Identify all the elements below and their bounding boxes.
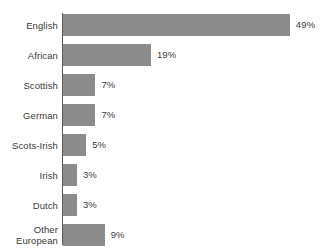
bar-track: 49%: [63, 14, 315, 36]
bar: [63, 134, 86, 156]
bar-value-label: 7%: [101, 74, 115, 96]
bar-row: English49%: [0, 10, 322, 40]
category-label: Scots-Irish: [0, 130, 58, 160]
bar-track: 19%: [63, 44, 176, 66]
bar: [63, 194, 77, 216]
bar-chart: English49%African19%Scottish7%German7%Sc…: [0, 0, 322, 252]
bar-row: German7%: [0, 100, 322, 130]
category-label: English: [0, 10, 58, 40]
bar-row: Other European9%: [0, 220, 322, 250]
bar-track: 9%: [63, 224, 125, 246]
bar: [63, 224, 105, 246]
bar-row: Irish3%: [0, 160, 322, 190]
bar-track: 3%: [63, 194, 97, 216]
bar-row: Scottish7%: [0, 70, 322, 100]
bar-value-label: 7%: [101, 104, 115, 126]
bar-value-label: 5%: [92, 134, 106, 156]
bar-value-label: 49%: [296, 14, 315, 36]
category-label: German: [0, 100, 58, 130]
category-label: African: [0, 40, 58, 70]
bar-row: African19%: [0, 40, 322, 70]
bar-row: Dutch3%: [0, 190, 322, 220]
bar-value-label: 9%: [111, 224, 125, 246]
bar-row: Scots-Irish5%: [0, 130, 322, 160]
category-label: Irish: [0, 160, 58, 190]
bar-track: 7%: [63, 74, 115, 96]
bar: [63, 14, 290, 36]
bar-value-label: 3%: [83, 164, 97, 186]
bar: [63, 44, 151, 66]
bar-track: 5%: [63, 134, 106, 156]
bar: [63, 74, 95, 96]
bar-track: 3%: [63, 164, 97, 186]
bar: [63, 164, 77, 186]
category-label: Scottish: [0, 70, 58, 100]
bar-track: 7%: [63, 104, 115, 126]
bar: [63, 104, 95, 126]
bar-value-label: 3%: [83, 194, 97, 216]
category-label: Dutch: [0, 190, 58, 220]
category-label: Other European: [0, 220, 58, 250]
bar-value-label: 19%: [157, 44, 176, 66]
